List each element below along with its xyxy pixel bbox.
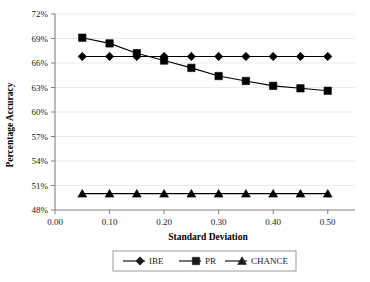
y-axis-tick-labels: 48%51%54%57%60%63%66%69%72%	[32, 9, 49, 215]
y-tick-label: 48%	[32, 205, 49, 215]
data-point-marker-square	[79, 34, 86, 41]
x-tick-label: 0.10	[102, 217, 118, 227]
data-point-marker-diamond	[105, 52, 113, 60]
y-axis-title: Percentage Accuracy	[5, 82, 15, 167]
accuracy-vs-standard-deviation-chart: 48%51%54%57%60%63%66%69%72% 0.000.100.20…	[0, 0, 370, 282]
data-point-marker-square	[297, 85, 304, 92]
y-tick-label: 57%	[32, 132, 49, 142]
x-axis-title: Standard Deviation	[168, 232, 248, 242]
x-tick-label: 0.00	[47, 217, 63, 227]
x-tick-label: 0.20	[156, 217, 172, 227]
x-tick-label: 0.50	[320, 217, 336, 227]
series-ibe	[78, 52, 332, 60]
y-tick-label: 66%	[32, 58, 49, 68]
data-point-marker-square	[242, 77, 249, 84]
y-tick-label: 60%	[32, 107, 49, 117]
data-series-layer	[78, 34, 332, 197]
y-tick-label: 54%	[32, 156, 49, 166]
data-point-marker-diamond	[324, 52, 332, 60]
x-tick-label: 0.30	[211, 217, 227, 227]
series-line	[82, 38, 327, 91]
data-point-marker-square	[160, 57, 167, 64]
data-point-marker-diamond	[242, 52, 250, 60]
y-tick-label: 51%	[32, 181, 49, 191]
data-point-marker-diamond	[269, 52, 277, 60]
data-point-marker-square	[215, 72, 222, 79]
chart-legend: IBEPRCHANCE	[113, 251, 296, 271]
legend-label: PR	[205, 256, 216, 266]
data-point-marker-diamond	[296, 52, 304, 60]
data-point-marker-square	[106, 40, 113, 47]
x-tick-label: 0.40	[265, 217, 281, 227]
chart-container: 48%51%54%57%60%63%66%69%72% 0.000.100.20…	[0, 0, 370, 282]
data-point-marker-square	[324, 87, 331, 94]
series-chance	[78, 189, 332, 197]
data-point-marker-square	[133, 50, 140, 57]
y-tick-label: 72%	[32, 9, 49, 19]
legend-label: IBE	[149, 256, 164, 266]
y-tick-label: 69%	[32, 34, 49, 44]
data-point-marker-diamond	[187, 52, 195, 60]
data-point-marker-diamond	[214, 52, 222, 60]
gridlines	[55, 14, 355, 186]
data-point-marker-square	[188, 64, 195, 71]
axes	[51, 14, 355, 214]
legend-label: CHANCE	[251, 256, 289, 266]
series-pr	[79, 34, 332, 94]
legend-marker-square	[192, 257, 199, 264]
x-axis-tick-labels: 0.000.100.200.300.400.50	[47, 217, 336, 227]
y-tick-label: 63%	[32, 83, 49, 93]
data-point-marker-diamond	[78, 52, 86, 60]
data-point-marker-square	[269, 82, 276, 89]
